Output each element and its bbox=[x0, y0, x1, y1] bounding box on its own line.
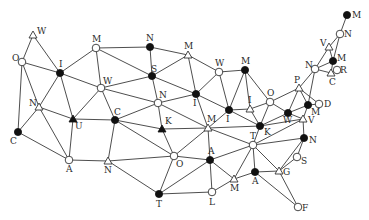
node-label: O bbox=[176, 159, 183, 169]
node-label: M bbox=[230, 183, 239, 193]
edge-k1-m4 bbox=[162, 128, 208, 129]
edge-t2-a2 bbox=[210, 145, 253, 160]
node-label: N bbox=[146, 33, 154, 43]
node-label: S bbox=[151, 64, 157, 74]
edge-w2-c2 bbox=[101, 88, 115, 120]
node-n3: N bbox=[146, 33, 154, 51]
circle-marker-icon bbox=[241, 66, 248, 73]
node-label: K bbox=[165, 116, 172, 126]
node-label: C bbox=[329, 77, 336, 87]
node-label: C bbox=[10, 136, 17, 146]
node-w4: W bbox=[283, 109, 293, 125]
edge-m4-k2 bbox=[208, 126, 260, 128]
node-o1: O bbox=[12, 53, 26, 66]
node-label: V bbox=[319, 38, 327, 48]
node-g1: G bbox=[275, 167, 290, 177]
node-t2: T bbox=[249, 131, 257, 149]
node-label: T bbox=[250, 131, 256, 141]
node-label: M bbox=[241, 56, 250, 66]
circle-marker-icon bbox=[215, 68, 223, 76]
node-label: W bbox=[283, 115, 293, 125]
node-label: N bbox=[309, 135, 317, 145]
node-d1: D bbox=[315, 99, 331, 109]
edge-c2-n2 bbox=[108, 120, 115, 161]
circle-marker-icon bbox=[293, 153, 301, 161]
node-label: I bbox=[59, 59, 63, 69]
node-a1: A bbox=[65, 156, 73, 174]
node-a3: A bbox=[251, 168, 259, 186]
node-label: T bbox=[156, 199, 162, 209]
node-a2: A bbox=[206, 146, 215, 164]
edge-m2-i2 bbox=[188, 55, 196, 94]
node-n5: N bbox=[300, 134, 317, 145]
node-label: A bbox=[251, 176, 259, 186]
node-label: A bbox=[207, 146, 215, 156]
node-label: I bbox=[248, 95, 252, 105]
node-label: N bbox=[305, 60, 313, 70]
node-label: K bbox=[264, 127, 271, 137]
edge-i1-n1 bbox=[39, 73, 60, 107]
circle-marker-icon bbox=[14, 128, 21, 135]
node-n7: N bbox=[336, 29, 352, 39]
node-v2: V bbox=[319, 38, 333, 50]
node-label: I bbox=[193, 98, 197, 108]
circle-marker-icon bbox=[92, 44, 100, 52]
edge-w2-n4 bbox=[101, 88, 158, 103]
edge-t1-l1 bbox=[159, 192, 212, 194]
graph-diagram: WOINCUAMWCNNSMNIWMKOMATLMIIOKWPMDVNTSGAF… bbox=[0, 0, 369, 220]
triangle-marker-icon bbox=[29, 31, 37, 38]
node-label: V bbox=[307, 115, 315, 125]
node-label: F bbox=[302, 203, 308, 213]
node-r1: R bbox=[333, 65, 347, 75]
node-label: C bbox=[114, 107, 121, 117]
circle-marker-icon bbox=[56, 69, 63, 76]
edge-s1-m2 bbox=[152, 55, 188, 76]
edge-u1-w2 bbox=[73, 88, 101, 119]
circle-marker-icon bbox=[154, 99, 162, 107]
node-u1: U bbox=[69, 115, 83, 131]
node-m1: M bbox=[92, 34, 101, 52]
edge-a3-f1 bbox=[255, 172, 298, 207]
edge-i1-m1 bbox=[60, 48, 96, 73]
circle-marker-icon bbox=[294, 203, 302, 211]
edge-o1-c1 bbox=[18, 62, 22, 132]
circle-marker-icon bbox=[300, 134, 307, 141]
edge-n3-m2 bbox=[150, 47, 188, 55]
edge-t2-g1 bbox=[253, 145, 279, 171]
node-label: A bbox=[65, 164, 73, 174]
edge-a1-n2 bbox=[69, 160, 108, 161]
node-label: M bbox=[207, 114, 216, 124]
node-label: I bbox=[226, 114, 230, 124]
node-label: M bbox=[92, 34, 101, 44]
node-w3: W bbox=[215, 58, 225, 76]
node-label: D bbox=[324, 99, 331, 109]
circle-marker-icon bbox=[256, 122, 263, 129]
edge-n1-c1 bbox=[18, 107, 39, 132]
circle-marker-icon bbox=[266, 98, 274, 106]
edge-layer bbox=[18, 15, 347, 207]
edge-m1-s1 bbox=[96, 48, 152, 76]
edge-n1-u1 bbox=[39, 107, 73, 119]
node-label: M bbox=[352, 10, 361, 20]
edge-w3-i3 bbox=[219, 72, 229, 110]
circle-marker-icon bbox=[343, 11, 350, 18]
edge-m3-i3 bbox=[229, 70, 245, 110]
edge-u1-a1 bbox=[69, 119, 73, 160]
node-w1: W bbox=[29, 26, 47, 38]
node-label: W bbox=[215, 58, 225, 68]
node-c1: C bbox=[10, 128, 22, 146]
node-label: P bbox=[294, 75, 300, 85]
node-v1: V bbox=[299, 115, 315, 125]
edge-m1-w2 bbox=[96, 48, 101, 88]
node-label: N bbox=[344, 29, 352, 39]
node-layer: WOINCUAMWCNNSMNIWMKOMATLMIIOKWPMDVNTSGAF… bbox=[10, 10, 361, 213]
circle-marker-icon bbox=[208, 188, 216, 196]
circle-marker-icon bbox=[329, 57, 336, 64]
node-label: L bbox=[209, 197, 215, 207]
node-label: M bbox=[184, 41, 193, 51]
node-label: U bbox=[75, 121, 83, 131]
circle-marker-icon bbox=[206, 156, 213, 163]
node-l1: L bbox=[208, 188, 216, 207]
node-label: N bbox=[104, 165, 112, 175]
circle-marker-icon bbox=[111, 116, 118, 123]
